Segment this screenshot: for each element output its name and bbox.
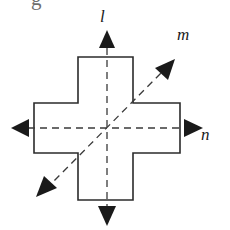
arrowhead-down-icon — [98, 206, 116, 226]
axis-label-m: m — [177, 26, 189, 43]
axis-label-l: l — [100, 8, 105, 25]
figure-canvas: g l m n — [0, 0, 230, 230]
axis-label-n: n — [201, 126, 210, 143]
arrowhead-up-icon — [99, 30, 115, 48]
arrowhead-left-icon — [11, 119, 29, 137]
arrowhead-down-left-icon — [36, 176, 57, 197]
cross-symmetry-diagram — [0, 0, 230, 230]
